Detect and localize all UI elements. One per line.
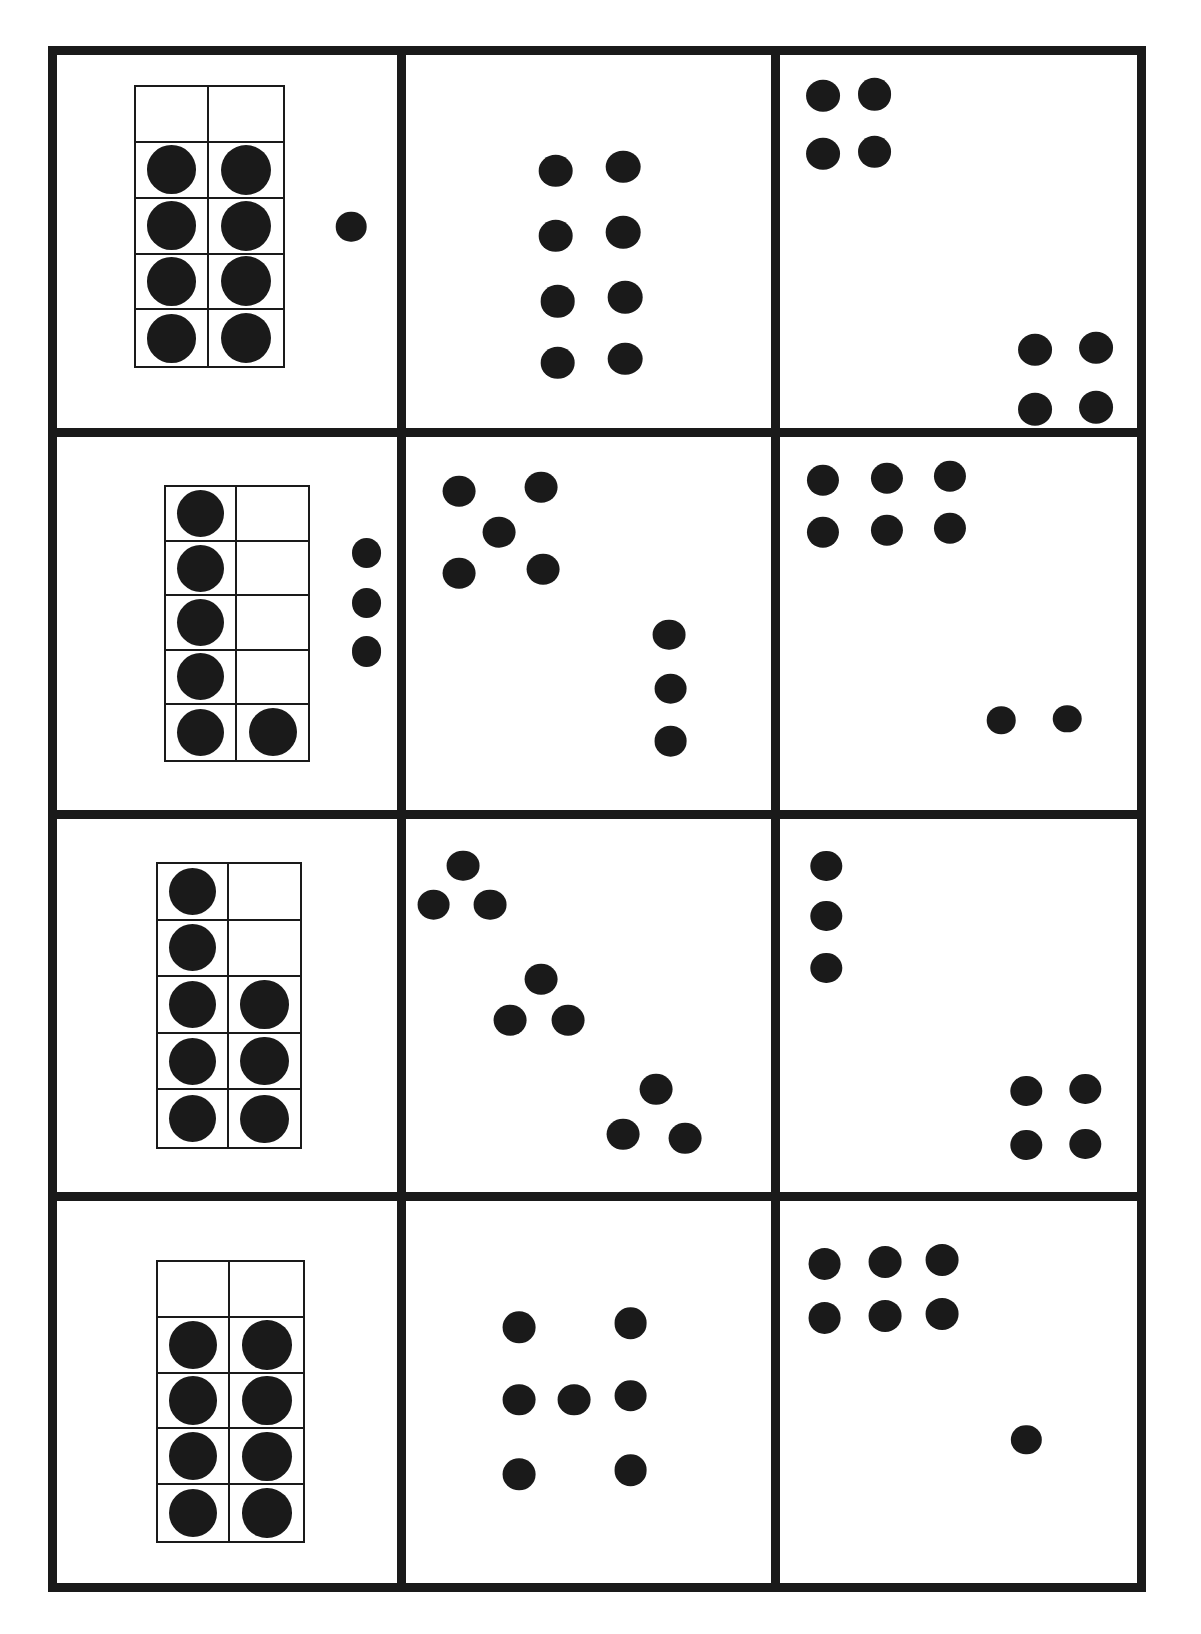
ten-frame-square-r3c1 — [158, 977, 229, 1034]
ten-frame-dot — [177, 599, 224, 646]
dot-r2c3-1 — [807, 465, 839, 496]
ten-frame-dot — [249, 708, 297, 756]
worksheet-cell-r3c3 — [780, 819, 1137, 1201]
ten-frame-r1c1 — [134, 85, 285, 368]
dot-r4c2-7 — [614, 1455, 647, 1486]
ten-frame-r3c1 — [156, 862, 302, 1149]
dot-r4c3-2 — [869, 1246, 902, 1278]
worksheet-cell-r4c2 — [406, 1201, 780, 1583]
ten-frame-square-r5c1 — [136, 310, 210, 366]
ten-frame-square-r1c2 — [230, 1262, 303, 1318]
dot-r4c3-5 — [869, 1300, 902, 1332]
dot-r1c2-3 — [538, 220, 573, 252]
dot-r2c2-1 — [443, 476, 476, 507]
dot-r4c2-2 — [614, 1308, 647, 1339]
ten-frame-square-r3c2 — [230, 1374, 303, 1430]
worksheet-grid — [57, 55, 1137, 1583]
worksheet-cell-r4c1 — [57, 1201, 406, 1583]
ten-frame-dot — [169, 868, 216, 915]
ten-frame-square-r2c2 — [209, 143, 283, 199]
ten-frame-square-r2c2 — [229, 921, 300, 978]
dot-r3c2-8 — [607, 1119, 640, 1150]
dot-r4c3-3 — [926, 1244, 959, 1276]
dot-r3c3-4 — [1011, 1076, 1042, 1106]
ten-frame-dot — [242, 1320, 292, 1370]
ten-frame-square-r1c2 — [229, 864, 300, 921]
dot-r2c1-3 — [352, 636, 382, 666]
ten-frame-dot — [169, 981, 216, 1028]
dot-r4c2-3 — [503, 1384, 536, 1415]
ten-frame-dot — [177, 490, 224, 537]
ten-frame-dot — [177, 653, 224, 700]
ten-frame-grid — [164, 485, 310, 761]
ten-frame-square-r4c1 — [158, 1034, 229, 1091]
ten-frame-square-r1c1 — [158, 1262, 231, 1318]
dot-r3c2-1 — [446, 850, 479, 881]
ten-frame-dot — [147, 201, 196, 250]
worksheet-cell-r2c2 — [406, 437, 780, 819]
dot-r3c2-7 — [640, 1074, 673, 1105]
dot-r3c3-5 — [1070, 1074, 1101, 1104]
dot-r2c3-7 — [987, 707, 1016, 734]
dot-r3c2-3 — [474, 889, 507, 920]
worksheet-cell-r3c1 — [57, 819, 406, 1201]
ten-frame-square-r2c2 — [237, 542, 308, 596]
dot-r2c2-6 — [652, 619, 685, 650]
ten-frame-dot — [169, 1321, 217, 1369]
dot-r4c3-4 — [808, 1301, 841, 1333]
dot-r2c3-2 — [871, 463, 903, 494]
dot-r3c3-7 — [1070, 1128, 1101, 1158]
dot-r3c3-6 — [1011, 1130, 1042, 1160]
dot-r1c2-7 — [540, 347, 575, 379]
ten-frame-square-r1c1 — [158, 864, 229, 921]
ten-frame-square-r2c1 — [158, 1318, 231, 1374]
dot-r3c3-3 — [811, 953, 842, 983]
ten-frame-grid — [156, 1260, 306, 1543]
dot-r3c2-2 — [417, 889, 450, 920]
ten-frame-square-r3c2 — [209, 199, 283, 255]
ten-frame-dot — [242, 1376, 292, 1426]
ten-frame-square-r5c2 — [230, 1485, 303, 1541]
ten-frame-dot — [169, 1095, 216, 1142]
ten-frame-dot — [169, 1489, 217, 1537]
ten-frame-square-r3c2 — [229, 977, 300, 1034]
dot-r2c2-5 — [527, 554, 560, 585]
ten-frame-square-r3c1 — [158, 1374, 231, 1430]
dot-r1c3-8 — [1079, 391, 1113, 423]
ten-frame-dot — [169, 1038, 216, 1085]
ten-frame-square-r3c1 — [136, 199, 210, 255]
worksheet-cell-r4c3 — [780, 1201, 1137, 1583]
ten-frame-dot — [221, 313, 271, 363]
dot-r3c2-9 — [669, 1123, 702, 1154]
dot-r1c3-5 — [1018, 333, 1052, 365]
ten-frame-grid — [134, 85, 285, 368]
dot-r2c3-6 — [933, 513, 965, 544]
ten-frame-square-r4c2 — [230, 1429, 303, 1485]
ten-frame-dot — [147, 257, 196, 306]
dot-r3c3-2 — [811, 901, 842, 931]
dot-r2c1-1 — [352, 538, 382, 568]
worksheet-cell-r1c2 — [406, 55, 780, 437]
worksheet-cell-r2c3 — [780, 437, 1137, 819]
ten-frame-dot — [147, 314, 196, 363]
ten-frame-dot — [177, 709, 224, 756]
dot-r1c3-3 — [806, 138, 840, 170]
ten-frame-square-r2c2 — [230, 1318, 303, 1374]
ten-frame-dot — [147, 145, 196, 194]
dot-r1c3-4 — [858, 136, 892, 168]
dot-r1c3-6 — [1079, 332, 1113, 364]
dot-r3c2-4 — [525, 964, 558, 995]
dot-r2c2-3 — [483, 517, 516, 548]
ten-frame-square-r1c1 — [136, 87, 210, 143]
dot-r4c3-6 — [926, 1298, 959, 1330]
ten-frame-grid — [156, 862, 302, 1149]
ten-frame-dot — [169, 1432, 217, 1480]
dot-r1c3-1 — [806, 80, 840, 112]
dot-r4c2-4 — [558, 1384, 591, 1415]
ten-frame-square-r5c1 — [166, 705, 237, 759]
ten-frame-square-r4c2 — [209, 255, 283, 311]
dot-r2c3-4 — [807, 517, 839, 548]
dot-r1c1-1 — [336, 211, 367, 242]
worksheet-cell-r2c1 — [57, 437, 406, 819]
dot-r2c2-2 — [525, 472, 558, 503]
